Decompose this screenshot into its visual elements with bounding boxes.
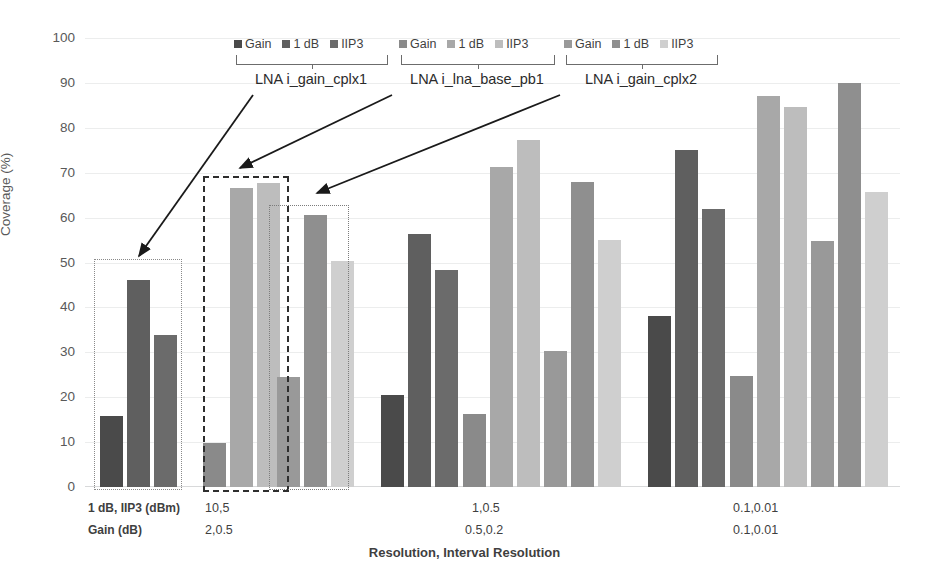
bar (544, 351, 567, 487)
bar (811, 241, 834, 487)
y-tick-0: 0 (29, 480, 75, 494)
highlight-box-gain-cplx2 (269, 205, 349, 490)
bar (598, 240, 621, 487)
legend-swatch-icon (495, 40, 503, 48)
bar (730, 376, 753, 487)
xaxis-group3-row1: 0.1,0.01 (733, 500, 778, 517)
bar (571, 182, 594, 487)
y-tick-30: 30 (29, 345, 75, 359)
legend-swatch-icon (660, 40, 668, 48)
bar (435, 270, 458, 487)
xaxis-group2-row1: 1,0.5 (472, 500, 500, 517)
y-tick-50: 50 (29, 256, 75, 270)
y-tick-80: 80 (29, 121, 75, 135)
legend-group-caption: LNA i_gain_cplx1 (255, 72, 367, 87)
y-tick-90: 90 (29, 76, 75, 90)
legend-brace-stem (312, 64, 313, 69)
bar (463, 414, 486, 487)
y-tick-40: 40 (29, 300, 75, 314)
legend-brace-2 (401, 55, 555, 65)
legend-group-3: Gain1 dBIIP3 (564, 38, 704, 51)
legend-item[interactable]: IIP3 (660, 38, 693, 51)
legend-item[interactable]: Gain (399, 38, 436, 51)
y-axis-label: Coverage (%) (0, 153, 13, 236)
legend-item[interactable]: Gain (234, 38, 271, 51)
legend-swatch-icon (234, 40, 242, 48)
legend-label: 1 dB (293, 38, 319, 51)
legend-label: Gain (410, 38, 436, 51)
bar (408, 234, 431, 487)
legend-item[interactable]: 1 dB (282, 38, 319, 51)
coverage-bar-chart: 0102030405060708090100 Coverage (%) Gain… (0, 0, 929, 579)
xaxis-row-label-1: 1 dB, IIP3 (dBm) (88, 500, 180, 516)
legend-brace-1 (236, 55, 388, 65)
legend-swatch-icon (612, 40, 620, 48)
bar (702, 209, 725, 487)
legend-item[interactable]: 1 dB (612, 38, 649, 51)
bar (865, 192, 888, 487)
legend-label: IIP3 (671, 38, 693, 51)
bar (648, 316, 671, 487)
xaxis-row-label-2: Gain (dB) (88, 522, 142, 538)
y-tick-70: 70 (29, 166, 75, 180)
legend-label: 1 dB (623, 38, 649, 51)
y-tick-100: 100 (29, 31, 75, 45)
x-axis-title: Resolution, Interval Resolution (0, 545, 929, 560)
highlight-box-gain-cplx1 (94, 259, 182, 490)
legend-brace-stem (642, 64, 643, 69)
bar (490, 167, 513, 487)
legend-label: IIP3 (341, 38, 363, 51)
legend-swatch-icon (330, 40, 338, 48)
legend-group-1: Gain1 dBIIP3 (234, 38, 374, 51)
legend-item[interactable]: IIP3 (330, 38, 363, 51)
bar (784, 107, 807, 487)
xaxis-group1-row2: 2,0.5 (205, 522, 233, 539)
xaxis-group2-row2: 0.5,0.2 (465, 522, 503, 539)
y-tick-20: 20 (29, 390, 75, 404)
legend-brace-stem (478, 64, 479, 69)
legend-group-2: Gain1 dBIIP3 (399, 38, 539, 51)
legend-swatch-icon (564, 40, 572, 48)
legend-group-caption: LNA i_lna_base_pb1 (410, 72, 544, 87)
legend-brace-3 (566, 55, 718, 65)
legend-label: Gain (245, 38, 271, 51)
y-tick-60: 60 (29, 211, 75, 225)
legend-label: Gain (575, 38, 601, 51)
bar (757, 96, 780, 487)
bar (381, 395, 404, 487)
legend-item[interactable]: IIP3 (495, 38, 528, 51)
xaxis-group1-row1: 10,5 (205, 500, 229, 517)
xaxis-group3-row2: 0.1,0.01 (733, 522, 778, 539)
legend-item[interactable]: Gain (564, 38, 601, 51)
legend-label: 1 dB (458, 38, 484, 51)
legend-item[interactable]: 1 dB (447, 38, 484, 51)
legend-label: IIP3 (506, 38, 528, 51)
legend-swatch-icon (282, 40, 290, 48)
bar (517, 140, 540, 487)
y-tick-10: 10 (29, 435, 75, 449)
legend-group-caption: LNA i_gain_cplx2 (585, 72, 697, 87)
bar (838, 83, 861, 487)
bar (675, 150, 698, 487)
legend-swatch-icon (447, 40, 455, 48)
legend-swatch-icon (399, 40, 407, 48)
